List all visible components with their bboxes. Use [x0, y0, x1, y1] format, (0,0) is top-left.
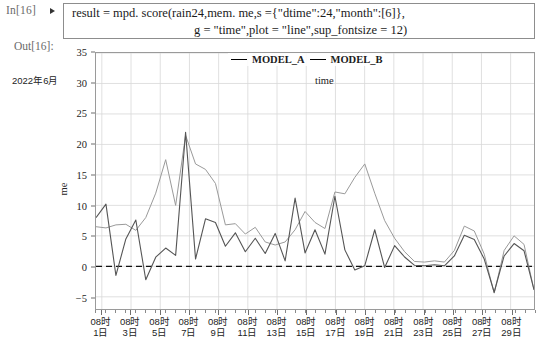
x-tick-label: 08时7日	[179, 316, 200, 338]
x-tick-mark-minor	[415, 310, 416, 313]
code-line-1: result = mpd. score(rain24,mem. me,s ={"…	[72, 5, 528, 22]
x-tick-mark-minor	[225, 310, 226, 313]
x-tick-mark-minor	[175, 310, 176, 313]
in-prompt-label: In[16]	[6, 4, 36, 16]
x-tick-mark-major	[424, 310, 425, 315]
legend-swatch-model-b	[310, 59, 326, 60]
x-tick-mark-major	[218, 310, 219, 315]
x-tick-mark-minor	[215, 310, 216, 313]
x-tick-mark-minor	[285, 310, 286, 313]
output-figure: 35302520151050−5 me MODEL_A MODEL_B 08时1…	[0, 44, 560, 353]
x-tick-mark-minor	[435, 310, 436, 313]
x-tick-mark-major	[336, 310, 337, 315]
x-tick-mark-major	[101, 310, 102, 315]
legend-label-model-a: MODEL_A	[252, 54, 305, 65]
code-input-box[interactable]: result = mpd. score(rain24,mem. me,s ={"…	[63, 3, 535, 39]
x-tick-mark-major	[453, 310, 454, 315]
x-tick-mark-major	[277, 310, 278, 315]
x-tick-mark-minor	[525, 310, 526, 313]
x-tick-mark-minor	[465, 310, 466, 313]
x-axis-label: time	[315, 75, 334, 86]
x-tick-mark-minor	[315, 310, 316, 313]
x-tick-mark-minor	[275, 310, 276, 313]
x-tick-mark-minor	[485, 310, 486, 313]
x-tick-mark-minor	[195, 310, 196, 313]
x-tick-mark-minor	[355, 310, 356, 313]
x-tick-mark-major	[248, 310, 249, 315]
legend-label-model-b: MODEL_B	[331, 54, 383, 65]
x-tick-mark-minor	[135, 310, 136, 313]
y-tick-label: 35	[77, 47, 88, 58]
x-tick-mark-minor	[145, 310, 146, 313]
x-tick-label: 08时23日	[413, 316, 434, 338]
y-tick-label: −5	[76, 292, 87, 303]
x-tick-mark-minor	[115, 310, 116, 313]
x-tick-mark-minor	[405, 310, 406, 313]
x-tick-mark-minor	[505, 310, 506, 313]
x-tick-mark-minor	[325, 310, 326, 313]
y-axis-label: me	[58, 183, 69, 196]
x-tick-label: 08时15日	[296, 316, 317, 338]
x-tick-mark-minor	[155, 310, 156, 313]
x-tick-label: 08时29日	[501, 316, 522, 338]
x-tick-mark-minor	[455, 310, 456, 313]
x-tick-mark-major	[394, 310, 395, 315]
x-tick-mark-minor	[95, 310, 96, 313]
notebook-cell: In[16] result = mpd. score(rain24,mem. m…	[0, 0, 560, 46]
series-line-model-b	[96, 135, 534, 293]
x-tick-mark-minor	[265, 310, 266, 313]
x-tick-mark-minor	[205, 310, 206, 313]
x-tick-label: 08时1日	[91, 316, 112, 338]
series-line-model-a	[96, 132, 534, 292]
x-tick-label: 08时9日	[208, 316, 229, 338]
x-tick-label: 08时19日	[355, 316, 376, 338]
x-tick-mark-minor	[515, 310, 516, 313]
x-tick-mark-minor	[385, 310, 386, 313]
x-tick-mark-minor	[165, 310, 166, 313]
x-tick-mark-minor	[255, 310, 256, 313]
x-tick-label: 08时27日	[472, 316, 493, 338]
y-tick-label: 15	[77, 169, 88, 180]
x-tick-label: 08时25日	[443, 316, 464, 338]
x-tick-mark-major	[482, 310, 483, 315]
x-tick-mark-major	[365, 310, 366, 315]
x-tick-mark-minor	[495, 310, 496, 313]
code-line-2: g = "time",plot = "line",sup_fontsize = …	[72, 22, 528, 39]
x-tick-label: 08时17日	[325, 316, 346, 338]
x-tick-mark-minor	[445, 310, 446, 313]
x-tick-mark-major	[130, 310, 131, 315]
x-tick-mark-minor	[295, 310, 296, 313]
x-tick-label: 08时13日	[267, 316, 288, 338]
x-tick-mark-minor	[245, 310, 246, 313]
y-tick-label: 5	[82, 231, 87, 242]
x-tick-label: 08时5日	[149, 316, 170, 338]
x-tick-mark-minor	[535, 310, 536, 313]
y-tick-label: 25	[77, 108, 88, 119]
x-tick-label: 08时3日	[120, 316, 141, 338]
y-tick-label: 20	[77, 139, 88, 150]
plot-area	[95, 52, 535, 310]
legend: MODEL_A MODEL_B	[228, 53, 385, 66]
x-tick-mark-minor	[235, 310, 236, 313]
x-tick-mark-major	[306, 310, 307, 315]
series-lines	[96, 53, 534, 309]
x-tick-label: 08时11日	[237, 316, 258, 338]
x-tick-mark-minor	[345, 310, 346, 313]
x-tick-mark-major	[189, 310, 190, 315]
x-axis: 08时1日08时3日08时5日08时7日08时9日08时11日08时13日08时…	[0, 310, 560, 353]
x-axis-month-label: 2022年6月	[12, 73, 58, 87]
x-tick-mark-minor	[475, 310, 476, 313]
x-tick-mark-major	[160, 310, 161, 315]
x-tick-mark-minor	[375, 310, 376, 313]
x-tick-mark-minor	[125, 310, 126, 313]
x-tick-label: 08时21日	[384, 316, 405, 338]
y-tick-label: 30	[77, 77, 88, 88]
legend-swatch-model-a	[231, 59, 247, 60]
y-tick-label: 0	[82, 262, 87, 273]
x-tick-mark-minor	[105, 310, 106, 313]
y-tick-label: 10	[77, 200, 88, 211]
x-tick-mark-minor	[425, 310, 426, 313]
play-triangle-icon[interactable]	[50, 8, 55, 14]
x-tick-mark-major	[512, 310, 513, 315]
x-tick-mark-minor	[185, 310, 186, 313]
